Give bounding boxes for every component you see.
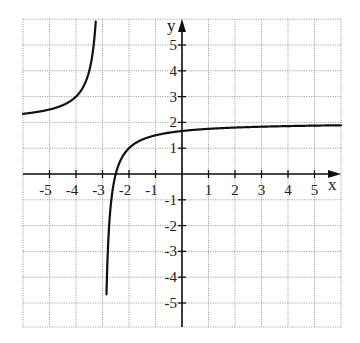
y-tick-label: -3 xyxy=(165,243,178,259)
y-tick-label: 2 xyxy=(170,114,178,130)
y-tick-label: 1 xyxy=(170,140,178,156)
function-graph: -5-4-3-2-11234554321-1-2-3-4-5 x y xyxy=(0,0,360,343)
x-tick-label: -2 xyxy=(119,182,132,198)
y-tick-label: 3 xyxy=(170,89,178,105)
y-axis-label: y xyxy=(167,16,176,35)
x-tick-label: -5 xyxy=(39,182,52,198)
y-tick-label: 5 xyxy=(170,37,178,53)
y-tick-label: -5 xyxy=(165,295,178,311)
x-tick-label: -3 xyxy=(92,182,105,198)
y-tick-label: -2 xyxy=(165,218,178,234)
x-tick-label: 5 xyxy=(311,182,319,198)
x-tick-label: 2 xyxy=(231,182,239,198)
x-tick-label: 3 xyxy=(258,182,266,198)
x-tick-label: -1 xyxy=(145,182,158,198)
y-tick-label: -1 xyxy=(165,192,178,208)
x-axis-label: x xyxy=(328,175,337,194)
x-tick-label: 1 xyxy=(205,182,213,198)
axes xyxy=(23,19,341,327)
y-tick-label: -4 xyxy=(165,269,178,285)
left-branch-curve xyxy=(23,22,96,114)
y-axis-arrow-icon xyxy=(178,19,186,32)
x-tick-label: -4 xyxy=(66,182,79,198)
x-tick-label: 4 xyxy=(284,182,292,198)
right-branch-curve xyxy=(106,125,341,294)
y-tick-label: 4 xyxy=(170,63,178,79)
